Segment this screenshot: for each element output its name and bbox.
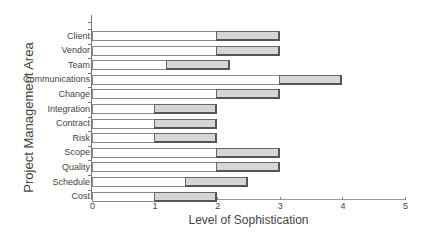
bar-current-level <box>92 133 155 143</box>
x-tick-label: 4 <box>333 201 353 211</box>
category-label: Team <box>68 60 90 71</box>
category-label: Client <box>67 31 90 42</box>
bar-target-gap <box>216 148 280 158</box>
x-tick <box>217 197 218 200</box>
y-tick <box>88 29 92 30</box>
y-tick <box>88 146 92 147</box>
y-tick <box>88 58 92 59</box>
x-tick-label: 1 <box>145 201 165 211</box>
y-tick <box>88 44 92 45</box>
bar-current-level <box>92 75 280 85</box>
bar-current-level <box>92 192 155 202</box>
bar-target-gap <box>216 89 280 99</box>
y-tick <box>88 160 92 161</box>
x-tick-label: 0 <box>83 201 103 211</box>
bar-target-gap <box>216 46 280 56</box>
x-tick <box>405 197 406 200</box>
x-axis-title: Level of Sophistication <box>92 213 405 227</box>
x-tick <box>342 197 343 200</box>
bar-current-level <box>92 31 217 41</box>
bar-target-gap <box>279 75 343 85</box>
category-label: Vendor <box>61 45 90 56</box>
bar-current-level <box>92 177 186 187</box>
bar-target-gap <box>185 177 249 187</box>
bar-target-gap <box>154 133 218 143</box>
x-tick-label: 3 <box>270 201 290 211</box>
y-tick <box>88 117 92 118</box>
bar-target-gap <box>154 192 218 202</box>
category-label: Schedule <box>52 177 90 188</box>
bar-target-gap <box>166 60 230 70</box>
bar-current-level <box>92 119 155 129</box>
y-tick <box>88 87 92 88</box>
y-tick <box>88 102 92 103</box>
category-label: Change <box>58 89 90 100</box>
bar-current-level <box>92 46 217 56</box>
x-tick <box>280 197 281 200</box>
category-label: Communications <box>23 74 90 85</box>
y-axis-title: Project Management Area <box>21 28 36 208</box>
bar-current-level <box>92 60 167 70</box>
bar-current-level <box>92 162 217 172</box>
bar-target-gap <box>154 104 218 114</box>
bar-current-level <box>92 89 217 99</box>
category-label: Contract <box>56 118 90 129</box>
y-tick <box>88 131 92 132</box>
bar-current-level <box>92 148 217 158</box>
x-tick-label: 2 <box>208 201 228 211</box>
y-tick <box>88 175 92 176</box>
bar-current-level <box>92 104 155 114</box>
y-tick <box>88 190 92 191</box>
category-label: Integration <box>47 104 90 115</box>
x-tick-label: 5 <box>396 201 416 211</box>
bar-target-gap <box>216 31 280 41</box>
bar-target-gap <box>216 162 280 172</box>
y-tick <box>88 22 92 23</box>
chart-area: Project Management Area Level of Sophist… <box>0 0 427 243</box>
bar-target-gap <box>154 119 218 129</box>
category-label: Quality <box>62 162 90 173</box>
y-tick <box>88 73 92 74</box>
category-label: Scope <box>64 147 90 158</box>
category-label: Risk <box>73 133 91 144</box>
